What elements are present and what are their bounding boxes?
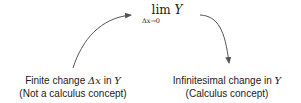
- arrow-limit-to-infinitesimal: [200, 15, 229, 63]
- finite-change-label: Finite change Δx in Y (Not a calculus co…: [10, 74, 136, 100]
- y-variable: Y: [114, 75, 121, 86]
- delta-x-symbol: Δx: [88, 75, 101, 86]
- lim-subscript: Δx→0: [137, 18, 165, 25]
- lim-variable: Y: [174, 3, 182, 17]
- y-variable: Y: [275, 75, 282, 86]
- infinitesimal-change-label: Infinitesimal change in Y (Calculus conc…: [162, 74, 292, 100]
- limit-expression: lim Y Δx→0: [137, 4, 197, 17]
- label-text: Finite change: [25, 75, 88, 86]
- label-text: Infinitesimal change in: [173, 75, 275, 86]
- label-text: in: [101, 75, 114, 86]
- lim-operator: lim: [152, 3, 171, 17]
- finite-change-note: (Not a calculus concept): [10, 87, 136, 100]
- infinitesimal-change-note: (Calculus concept): [162, 87, 292, 100]
- arrow-finite-to-limit: [73, 15, 131, 68]
